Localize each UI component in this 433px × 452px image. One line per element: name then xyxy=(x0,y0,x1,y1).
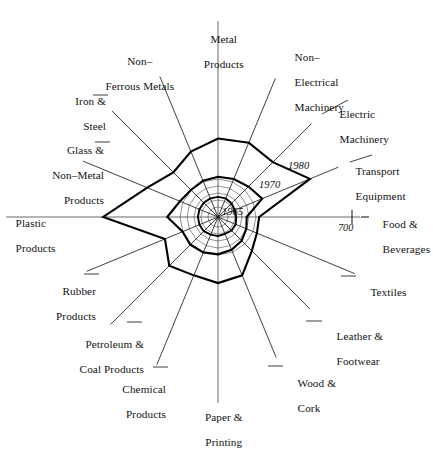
label-line: Equipment xyxy=(356,190,406,202)
label-line: Metal xyxy=(210,33,237,45)
label-line: Products xyxy=(64,194,104,206)
label-line: Products xyxy=(56,310,96,322)
label-line: Rubber xyxy=(62,285,96,297)
label-line: Ferrous Metals xyxy=(105,80,174,92)
label-line: Steel xyxy=(83,120,106,132)
label-line: Non– xyxy=(295,51,320,63)
series-annotation-1970: 1970 xyxy=(259,179,280,190)
label-line: Non–Metal xyxy=(52,169,104,181)
label-line: Cork xyxy=(298,402,321,414)
label-line: Products xyxy=(16,242,56,254)
category-label-wood-cork: Wood & Cork xyxy=(286,364,356,427)
series-polygon-1980 xyxy=(103,139,310,284)
label-line: Wood & xyxy=(297,377,336,389)
label-line: Petroleum & xyxy=(85,338,144,350)
axis-spoke xyxy=(111,217,218,324)
category-label-electric-machinery: Electric Machinery xyxy=(328,95,426,158)
axis-spoke xyxy=(218,217,355,274)
label-line: Food & xyxy=(383,218,418,230)
label-line: Non– xyxy=(127,55,152,67)
category-label-food-beverages: Food & Beverages xyxy=(371,205,433,268)
label-line: Machinery xyxy=(340,133,389,145)
series-annotation-1980: 1980 xyxy=(288,160,309,171)
label-line: Electric xyxy=(340,108,376,120)
label-line: Coal Products xyxy=(80,363,144,375)
label-line: Textiles xyxy=(370,286,406,298)
axis-spoke xyxy=(218,217,276,357)
label-line: Transport xyxy=(355,165,399,177)
category-label-textiles: Textiles xyxy=(359,273,425,311)
axis-spoke xyxy=(218,78,275,217)
label-line: Electrical xyxy=(295,76,339,88)
label-line: Products xyxy=(204,58,244,70)
label-line: Beverages xyxy=(383,243,431,255)
category-label-rubber-products: Rubber Products xyxy=(16,272,96,335)
series-annotation-1965: 1965 xyxy=(222,206,243,217)
category-label-paper-printing: Paper & Printing xyxy=(172,398,264,452)
category-label-non-ferrous-metals: Non– Ferrous Metals xyxy=(85,42,183,105)
label-line: Printing xyxy=(205,436,242,448)
label-line: Glass & xyxy=(67,144,104,156)
category-label-metal-products: Metal Products xyxy=(176,20,260,83)
radial-tick-label-700: 700 xyxy=(338,222,353,233)
axis-spoke xyxy=(87,217,218,271)
label-line: Products xyxy=(126,408,166,420)
label-line: Leather & xyxy=(337,330,384,342)
series-polygons xyxy=(103,139,310,284)
label-line: Paper & xyxy=(205,411,243,423)
